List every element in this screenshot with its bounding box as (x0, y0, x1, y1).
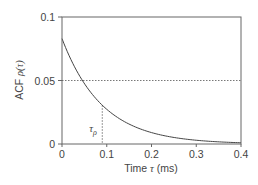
acf-chart: 00.050.1 00.10.20.30.4 τρ Time τ (ms) AC… (0, 0, 258, 185)
x-axis-ticks: 00.10.20.30.4 (59, 144, 248, 160)
y-axis-label: ACF ρ(τ) (13, 60, 26, 100)
y-axis-ticks: 00.050.1 (35, 11, 62, 150)
tau-rho-label: τρ (89, 123, 97, 137)
x-tick-label: 0.3 (189, 148, 204, 160)
x-tick-label: 0.2 (144, 148, 159, 160)
y-tick-label: 0 (49, 138, 55, 150)
y-tick-label: 0.05 (35, 75, 56, 87)
x-tick-label: 0.1 (99, 148, 114, 160)
x-tick-label: 0.4 (234, 148, 249, 160)
y-tick-label: 0.1 (40, 11, 55, 23)
x-tick-label: 0 (59, 148, 65, 160)
x-axis-label: Time τ (ms) (124, 162, 178, 174)
